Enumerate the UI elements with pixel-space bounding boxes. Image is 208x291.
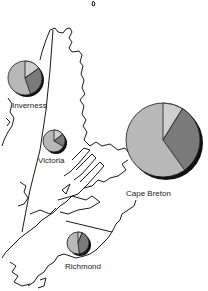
pie-cape-breton — [126, 103, 203, 180]
county-line-west — [22, 30, 53, 232]
label-victoria: Victoria — [38, 156, 65, 165]
county-line-south — [66, 221, 112, 232]
label-richmond: Richmond — [65, 262, 101, 271]
islet — [92, 1, 95, 6]
cape-breton-map — [0, 0, 208, 291]
label-inverness: Inverness — [12, 101, 47, 110]
pie-richmond — [67, 232, 91, 256]
pie-inverness — [8, 61, 44, 97]
label-cape-breton: Cape Breton — [126, 189, 171, 198]
pie-victoria — [43, 130, 67, 154]
